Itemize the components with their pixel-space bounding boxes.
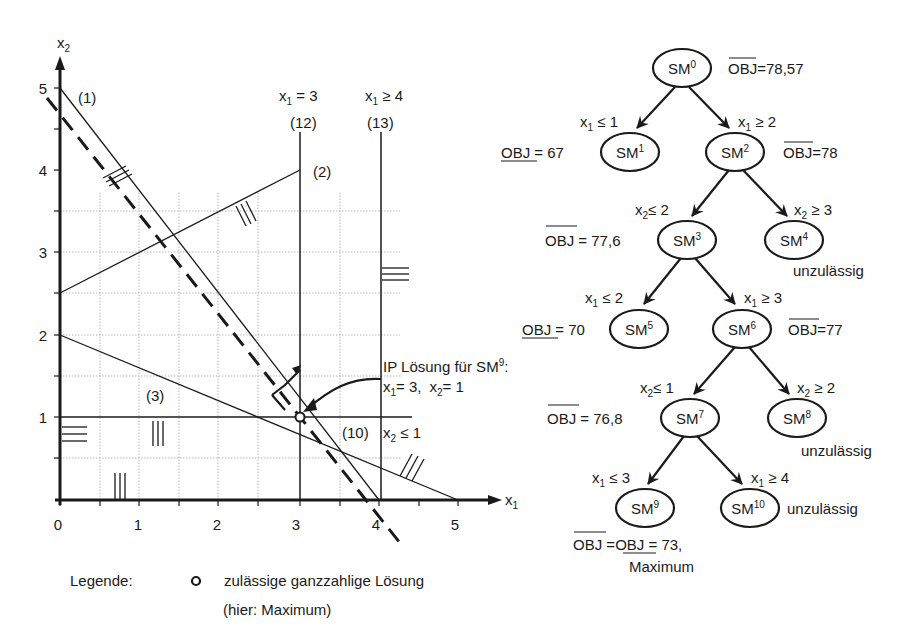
x-axis-label: x1: [505, 491, 519, 511]
hatch-mark: [62, 421, 163, 446]
bound-sm6: OBJ=77: [788, 321, 843, 338]
svg-text:(10): (10): [342, 424, 369, 441]
y-axis-arrow-icon: [55, 56, 65, 70]
ip-solution-point: [296, 413, 305, 422]
sm4-infeasible: unzulässig: [793, 262, 864, 279]
svg-text:(3): (3): [146, 387, 164, 404]
svg-text:3: 3: [292, 516, 300, 533]
svg-text:x1 ≥ 4: x1 ≥ 4: [751, 469, 789, 489]
svg-text:3: 3: [39, 244, 47, 261]
svg-text:(1): (1): [78, 89, 96, 106]
sm8-infeasible: unzulässig: [801, 442, 872, 459]
tree-node-sm3: SM3: [658, 221, 716, 259]
legend-text: zulässige ganzzahlige Lösung: [224, 572, 424, 589]
svg-text:1: 1: [134, 516, 142, 533]
svg-text:(13): (13): [367, 114, 394, 131]
tree-node-sm9: SM9: [616, 489, 674, 527]
svg-text:x1 ≤ 2: x1 ≤ 2: [585, 289, 623, 309]
bound-labels: OBJ=78,57 OBJ = 67 OBJ=78 OBJ = 77,6 unz…: [501, 58, 872, 575]
svg-text:x1 ≥ 3: x1 ≥ 3: [744, 289, 782, 309]
constraint-10-equation: x2 ≤ 1: [383, 424, 421, 444]
svg-text:x2 ≥ 2: x2 ≥ 2: [797, 379, 835, 399]
sm9-maximum-note: Maximum: [629, 558, 694, 575]
y-axis-label: x2: [57, 34, 71, 54]
constraint-1: (1): [60, 88, 379, 500]
sm10-infeasible: unzulässig: [787, 500, 858, 517]
gradient-direction-icon: [272, 370, 300, 395]
tree-node-sm10: SM10: [721, 489, 779, 527]
bound-sm1: OBJ = 67: [501, 144, 564, 161]
svg-text:(2): (2): [313, 163, 331, 180]
svg-text:x2 ≥ 3: x2 ≥ 3: [794, 201, 832, 221]
hatch-mark: [382, 268, 409, 280]
svg-text:x1 ≥ 2: x1 ≥ 2: [738, 113, 776, 133]
svg-text:x1 ≤ 3: x1 ≤ 3: [592, 469, 630, 489]
tree-node-sm5: SM5: [610, 310, 668, 348]
svg-text:5: 5: [39, 80, 47, 97]
hatch-mark: [236, 201, 256, 226]
bound-sm0: OBJ=78,57: [728, 60, 803, 77]
objective-line: [47, 98, 404, 548]
hatch-mark: [103, 166, 132, 186]
svg-text:0: 0: [54, 516, 62, 533]
svg-text:x2≤ 1: x2≤ 1: [640, 379, 674, 399]
svg-text:2: 2: [213, 516, 221, 533]
constraint-13-equation: x1 ≥ 4: [365, 87, 403, 107]
hatch-mark-x-axis: [115, 473, 125, 499]
tick-marks: [54, 88, 458, 506]
diagram-canvas: x2 x1 0 1 2 3 4 5 1: [0, 0, 916, 639]
svg-text:x1 ≤ 1: x1 ≤ 1: [580, 113, 618, 133]
legend-title: Legende:: [70, 572, 133, 589]
tree-node-sm7: SM7: [661, 399, 719, 437]
bound-sm3: OBJ = 77,6: [545, 232, 620, 249]
tree-node-sm4: SM4: [765, 221, 823, 259]
svg-text:2: 2: [39, 327, 47, 344]
constraint-2: (2): [60, 163, 331, 293]
legend: Legende: zulässige ganzzahlige Lösung (h…: [70, 572, 424, 618]
legend-point-icon: [192, 577, 200, 585]
constraint-10: (10) x2 ≤ 1: [60, 417, 421, 446]
tree-node-sm8: SM8: [768, 399, 826, 437]
svg-text:5: 5: [451, 516, 459, 533]
bound-sm9: OBJ =OBJ = 73,: [573, 536, 682, 553]
x-tick-labels: 0 1 2 3 4 5: [54, 516, 459, 533]
plot-grid: [60, 192, 419, 500]
bb-tree: SM0 SM1 SM2 SM3 SM4 SM5 SM6 SM7: [501, 49, 872, 575]
annotation-arrow-icon: [308, 379, 381, 408]
ip-solution-annotation: IP Lösung für SM9: x1= 3,x2= 1: [383, 357, 508, 398]
legend-text-2: (hier: Maximum): [223, 601, 331, 618]
svg-text:(12): (12): [290, 114, 317, 131]
svg-text:1: 1: [39, 409, 47, 426]
y-tick-labels: 1 2 3 4 5: [39, 80, 47, 426]
x-axis-arrow-icon: [488, 495, 502, 505]
bound-sm5: OBJ = 70: [522, 321, 585, 338]
tree-node-sm6: SM6: [713, 310, 771, 348]
svg-text:IP Lösung für SM9:: IP Lösung für SM9:: [383, 357, 508, 375]
constraint-12-equation: x1 = 3: [279, 87, 318, 107]
bound-sm2: OBJ=78: [783, 144, 838, 161]
tree-node-sm2: SM2: [706, 133, 764, 171]
svg-text:x2≤ 2: x2≤ 2: [635, 201, 669, 221]
svg-text:x1= 3,x2= 1: x1= 3,x2= 1: [383, 378, 464, 398]
svg-text:4: 4: [39, 162, 47, 179]
tree-node-sm0: SM0: [653, 49, 711, 87]
tree-node-sm1: SM1: [601, 133, 659, 171]
bound-sm7: OBJ = 76,8: [547, 410, 622, 427]
